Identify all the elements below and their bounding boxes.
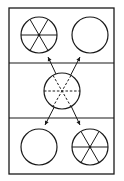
circles	[21, 17, 108, 165]
bottom-circle-2	[72, 129, 108, 165]
transfer-diagram	[0, 0, 124, 181]
center-dot	[38, 34, 41, 37]
circle-outline	[21, 129, 57, 165]
center-dot	[89, 146, 92, 149]
top-circle-1	[21, 17, 57, 53]
circle-outline	[72, 17, 108, 53]
middle-circle-1	[44, 73, 80, 109]
top-circle-2	[72, 17, 108, 53]
bottom-circle-1	[21, 129, 57, 165]
